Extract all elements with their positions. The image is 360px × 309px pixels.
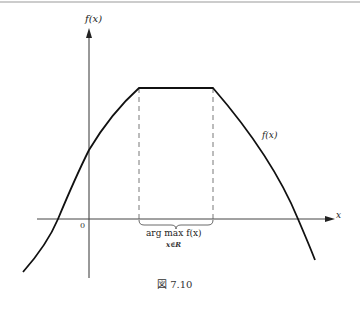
- figure-caption: 図 7.10: [157, 276, 192, 291]
- origin-label: 0: [80, 221, 85, 230]
- argmax-label: arg max f(x): [146, 228, 202, 238]
- argmax-diagram: [0, 0, 360, 309]
- x-axis-arrow-icon: [325, 216, 335, 222]
- y-axis-label: f(x): [85, 13, 102, 24]
- x-axis-label: x: [336, 210, 341, 220]
- argmax-subscript: x∈R: [166, 240, 181, 249]
- curve-label: f(x): [262, 130, 277, 140]
- y-axis-arrow-icon: [86, 28, 92, 38]
